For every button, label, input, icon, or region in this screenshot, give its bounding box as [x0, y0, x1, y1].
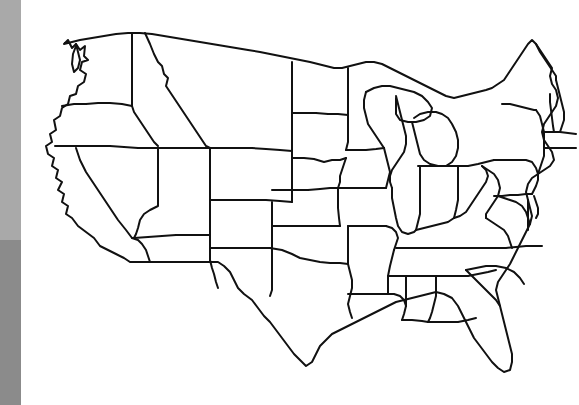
border-delaware-maryland	[534, 196, 538, 218]
screenshot-root	[0, 0, 579, 405]
border-vermont-massachusetts	[544, 132, 576, 134]
border-newhampshire-maine	[556, 80, 564, 132]
border-florida-panhandle	[402, 320, 428, 322]
national-outline-path	[46, 33, 558, 372]
us-outline-map	[0, 0, 579, 405]
